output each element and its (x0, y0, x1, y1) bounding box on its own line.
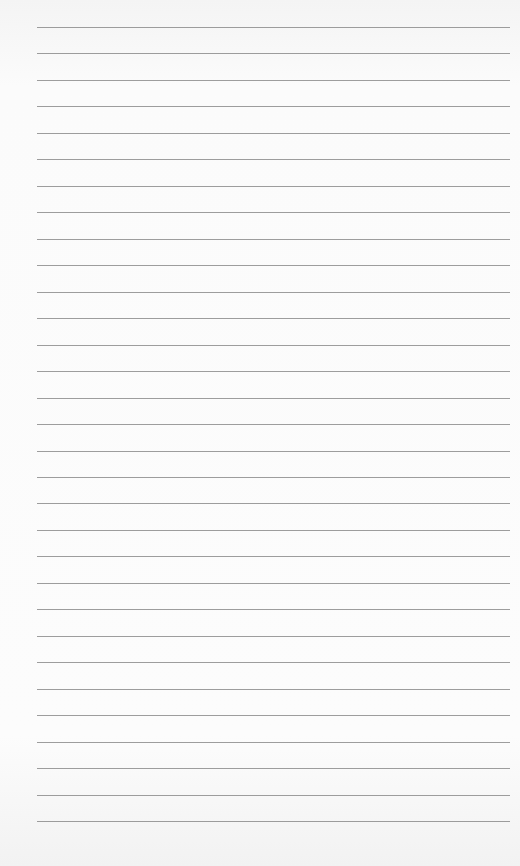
ruled-line (37, 133, 510, 134)
ruled-line (37, 636, 510, 637)
ruled-line (37, 768, 510, 769)
ruled-line (37, 530, 510, 531)
ruled-line (37, 556, 510, 557)
ruled-line (37, 689, 510, 690)
ruled-line (37, 212, 510, 213)
ruled-line (37, 265, 510, 266)
ruled-line (37, 821, 510, 822)
ruled-line (37, 106, 510, 107)
ruled-line (37, 345, 510, 346)
ruled-line (37, 583, 510, 584)
ruled-line (37, 159, 510, 160)
ruled-line (37, 292, 510, 293)
ruled-line (37, 398, 510, 399)
ruled-line (37, 742, 510, 743)
ruled-line (37, 609, 510, 610)
ruled-line (37, 503, 510, 504)
ruled-line (37, 451, 510, 452)
ruled-line (37, 477, 510, 478)
ruled-line (37, 715, 510, 716)
ruled-line (37, 662, 510, 663)
ruled-line (37, 53, 510, 54)
ruled-line (37, 424, 510, 425)
ruled-line (37, 795, 510, 796)
lined-paper-page (0, 0, 520, 866)
ruled-line (37, 318, 510, 319)
ruled-line (37, 239, 510, 240)
ruled-line (37, 371, 510, 372)
ruled-line (37, 27, 510, 28)
ruled-line (37, 186, 510, 187)
ruled-line (37, 80, 510, 81)
